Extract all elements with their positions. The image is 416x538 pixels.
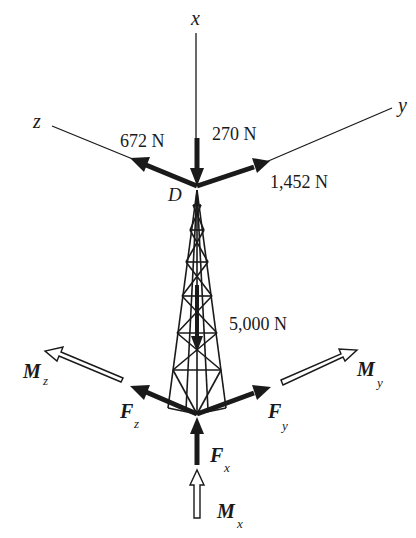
svg-text:F: F bbox=[209, 444, 224, 466]
arrow-My bbox=[281, 349, 357, 385]
svg-text:F: F bbox=[267, 400, 282, 422]
svg-text:x: x bbox=[223, 460, 230, 475]
label-Fz: F z bbox=[119, 400, 139, 431]
svg-text:y: y bbox=[280, 418, 288, 433]
svg-text:M: M bbox=[22, 360, 42, 382]
load-672N-label: 672 N bbox=[120, 131, 165, 151]
svg-text:M: M bbox=[216, 500, 236, 522]
arrow-Fx bbox=[190, 417, 204, 465]
free-body-diagram: x y z D 270 N 672 N 1,452 N 5,000 N M z … bbox=[0, 0, 416, 538]
axis-y bbox=[266, 108, 392, 162]
svg-text:M: M bbox=[356, 358, 376, 380]
axis-z-label: z bbox=[32, 110, 41, 132]
load-270N-label: 270 N bbox=[212, 124, 257, 144]
label-Fy: F y bbox=[267, 400, 288, 433]
arrow-Mz bbox=[45, 347, 123, 382]
arrow-Mx bbox=[190, 470, 204, 518]
load-1452N-label: 1,452 N bbox=[270, 172, 328, 192]
arrow-672N bbox=[130, 157, 197, 186]
svg-text:y: y bbox=[375, 375, 383, 390]
label-Mx: M x bbox=[216, 500, 243, 531]
axis-y-label: y bbox=[396, 94, 407, 117]
label-My: M y bbox=[356, 358, 383, 390]
label-Fx: F x bbox=[209, 444, 230, 475]
svg-text:F: F bbox=[119, 400, 134, 422]
label-Mz: M z bbox=[22, 360, 48, 388]
arrow-5000N bbox=[191, 285, 203, 352]
svg-text:x: x bbox=[236, 516, 243, 531]
arrow-270N bbox=[190, 138, 204, 186]
point-D-label: D bbox=[167, 184, 182, 205]
arrow-1452N bbox=[197, 158, 270, 186]
axis-x-label: x bbox=[190, 7, 200, 29]
svg-text:z: z bbox=[133, 416, 139, 431]
load-5000N-label: 5,000 N bbox=[229, 314, 287, 334]
svg-text:z: z bbox=[42, 373, 48, 388]
